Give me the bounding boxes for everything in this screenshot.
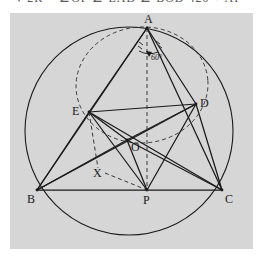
cropped-text: = √ 2R ≡ ∠OF ∠ EAD ∠ BOD 420 + AP bbox=[4, 0, 242, 6]
vertex-dot-P bbox=[146, 189, 149, 192]
point-label-C: C bbox=[225, 193, 233, 205]
vertex-dot-A bbox=[146, 27, 149, 30]
segment-OB bbox=[37, 140, 127, 190]
circumcircle bbox=[25, 27, 233, 235]
inner-dashed-circle bbox=[72, 23, 212, 148]
figure-page: = √ 2R ≡ ∠OF ∠ EAD ∠ BOD 420 + AP bbox=[0, 0, 263, 259]
angle-label-60: 60° bbox=[151, 54, 162, 62]
segment-AD bbox=[147, 28, 196, 104]
vertex-dot-E bbox=[88, 111, 91, 114]
point-label-D: D bbox=[200, 97, 209, 109]
vertex-dot-C bbox=[221, 189, 224, 192]
point-label-A: A bbox=[144, 13, 153, 25]
segment-AE bbox=[89, 28, 147, 112]
cropped-text-strip: = √ 2R ≡ ∠OF ∠ EAD ∠ BOD 420 + AP bbox=[0, 0, 263, 9]
point-label-O: O bbox=[131, 141, 140, 153]
vertex-dot-D bbox=[195, 103, 198, 106]
point-label-P: P bbox=[143, 194, 150, 206]
point-label-E: E bbox=[72, 105, 79, 117]
geometry-figure-panel: A D E O X B P C 60° bbox=[10, 13, 253, 249]
segment-ED bbox=[89, 104, 196, 112]
geometry-diagram bbox=[10, 13, 253, 249]
point-label-X: X bbox=[93, 167, 102, 179]
segment-EB bbox=[37, 112, 89, 190]
point-label-B: B bbox=[27, 193, 35, 205]
angle-tick-left-2 bbox=[138, 46, 142, 49]
vertex-dot-O bbox=[126, 139, 129, 142]
angle-tick-left-1 bbox=[139, 42, 143, 45]
vertex-dot-B bbox=[36, 189, 39, 192]
